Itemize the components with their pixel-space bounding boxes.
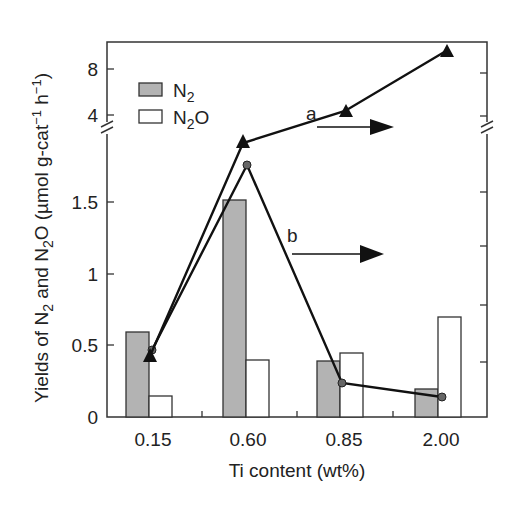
bar-n2-0.15 bbox=[126, 332, 149, 417]
x-tick-0.85: 0.85 bbox=[326, 429, 363, 450]
chart: 8 4 1.5 1 0.5 0 0.15 0.60 0.85 2.00 Ti c… bbox=[0, 0, 518, 506]
y-tick-0: 0 bbox=[87, 407, 98, 428]
marker-b-0.60 bbox=[243, 161, 251, 169]
bar-n2o-2.00 bbox=[438, 317, 461, 417]
y-tick-1.5: 1.5 bbox=[72, 192, 98, 213]
x-axis-label: Ti content (wt%) bbox=[229, 460, 366, 481]
y-ticks-left bbox=[107, 69, 114, 345]
marker-b-0.85 bbox=[338, 379, 346, 387]
annotation-a: a bbox=[306, 103, 317, 124]
x-tick-2.00: 2.00 bbox=[423, 429, 460, 450]
legend: N2 N2O bbox=[139, 80, 209, 132]
marker-b-2.00 bbox=[438, 393, 446, 401]
y-tick-4: 4 bbox=[87, 105, 98, 126]
axis-break-right bbox=[480, 121, 494, 134]
arrow-right-icon-a bbox=[317, 119, 394, 135]
legend-label-n2: N2 bbox=[173, 80, 195, 105]
y-ticks-right bbox=[480, 73, 487, 362]
legend-swatch-n2o bbox=[139, 110, 162, 123]
bar-n2o-0.15 bbox=[149, 396, 172, 417]
marker-a-2.00 bbox=[440, 44, 454, 57]
y-tick-8: 8 bbox=[87, 59, 98, 80]
bar-n2o-0.60 bbox=[246, 360, 269, 417]
y-tick-1: 1 bbox=[87, 264, 98, 285]
annotation-b: b bbox=[287, 225, 298, 246]
bar-n2-0.60 bbox=[223, 200, 246, 417]
x-tick-labels: 0.15 0.60 0.85 2.00 bbox=[135, 429, 460, 450]
y-tick-0.5: 0.5 bbox=[72, 335, 98, 356]
y-tick-labels: 8 4 1.5 1 0.5 0 bbox=[72, 59, 99, 428]
axis-break-left bbox=[100, 121, 114, 134]
y-axis-label: Yields of N2 and N2O (µmol g-cat−1 h−1) bbox=[29, 73, 56, 403]
legend-label-n2o: N2O bbox=[173, 107, 209, 132]
marker-a-0.85 bbox=[339, 104, 353, 117]
x-tick-0.60: 0.60 bbox=[230, 429, 267, 450]
arrow-right-icon-b bbox=[292, 245, 384, 263]
legend-swatch-n2 bbox=[139, 83, 162, 96]
x-tick-0.15: 0.15 bbox=[135, 429, 172, 450]
line-b bbox=[148, 161, 446, 401]
